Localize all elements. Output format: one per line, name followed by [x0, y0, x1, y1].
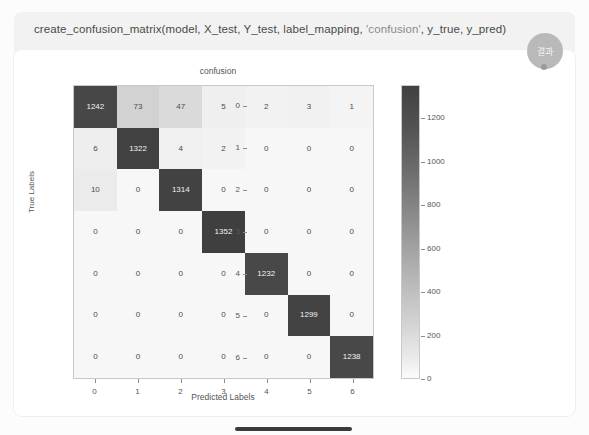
x-tick-label: 4: [247, 387, 287, 396]
colorbar-tick-mark: [421, 379, 425, 380]
heatmap-cell: 0: [245, 169, 288, 211]
heatmap-cell: 0: [117, 336, 160, 378]
colorbar-tick-label: 0: [427, 374, 431, 383]
colorbar-tick-label: 1200: [427, 113, 445, 122]
heatmap-cell: 1322: [117, 128, 160, 170]
y-tick-label: 3: [200, 227, 240, 236]
colorbar-tick-label: 800: [427, 200, 440, 209]
heatmap-cell: 0: [117, 253, 160, 295]
heatmap-cell: 73: [117, 86, 160, 128]
y-axis-label: True Labels: [27, 171, 36, 213]
notebook-page: create_confusion_matrix(model, X_test, Y…: [0, 0, 589, 435]
heatmap-cell: 3: [288, 86, 331, 128]
x-tick-label: 3: [204, 387, 244, 396]
x-tick-mark: [224, 379, 225, 383]
code-call-suffix: , y_true, y_pred): [421, 23, 506, 35]
y-tick-label: 5: [200, 311, 240, 320]
heatmap-cell: 0: [74, 253, 117, 295]
result-badge-dot: [541, 64, 547, 70]
y-tick-label: 0: [200, 101, 240, 110]
heatmap-cell: 2: [245, 86, 288, 128]
x-tick-mark: [95, 379, 96, 383]
heatmap-cell: 47: [159, 86, 202, 128]
heatmap-cell: 1314: [159, 169, 202, 211]
colorbar-tick-mark: [421, 162, 425, 163]
heatmap-cell: 1: [330, 86, 373, 128]
x-tick-mark: [353, 379, 354, 383]
heatmap-cell: 0: [117, 295, 160, 337]
heatmap-cell: 0: [288, 336, 331, 378]
heatmap-cell: 0: [245, 295, 288, 337]
heatmap-cell: 0: [330, 128, 373, 170]
y-tick-mark: [243, 148, 247, 149]
colorbar-tick-mark: [421, 336, 425, 337]
y-tick-mark: [243, 106, 247, 107]
heatmap-cell: 1299: [288, 295, 331, 337]
heatmap-cell: 0: [245, 128, 288, 170]
code-string-argument: 'confusion': [366, 23, 421, 35]
heatmap-cell: 0: [245, 211, 288, 253]
code-cell-text: create_confusion_matrix(model, X_test, Y…: [34, 23, 506, 35]
colorbar: [401, 85, 420, 379]
y-tick-mark: [243, 274, 247, 275]
x-tick-label: 2: [161, 387, 201, 396]
heatmap-cell: 0: [159, 253, 202, 295]
result-badge-label: 결과: [537, 45, 552, 58]
heatmap-cell: 0: [117, 211, 160, 253]
heatmap-cell: 0: [117, 169, 160, 211]
y-tick-label: 4: [200, 269, 240, 278]
x-tick-label: 1: [118, 387, 158, 396]
heatmap-cell: 0: [159, 211, 202, 253]
colorbar-tick-mark: [421, 205, 425, 206]
heatmap-cell: 0: [288, 253, 331, 295]
heatmap-cell: 0: [245, 336, 288, 378]
heatmap-cell: 0: [159, 336, 202, 378]
x-tick-mark: [267, 379, 268, 383]
y-tick-label: 2: [200, 185, 240, 194]
x-tick-label: 6: [333, 387, 373, 396]
output-card: confusion True Labels Predicted Labels 1…: [14, 50, 575, 416]
x-tick-label: 5: [290, 387, 330, 396]
heatmap-cell: 1232: [245, 253, 288, 295]
heatmap-cell: 0: [288, 128, 331, 170]
scroll-indicator[interactable]: [235, 427, 352, 431]
y-tick-mark: [243, 190, 247, 191]
heatmap-cell: 0: [330, 295, 373, 337]
code-cell-strip[interactable]: create_confusion_matrix(model, X_test, Y…: [14, 12, 575, 52]
x-tick-mark: [181, 379, 182, 383]
heatmap-cell: 0: [330, 211, 373, 253]
heatmap-cell: 0: [74, 211, 117, 253]
heatmap-cell: 0: [288, 211, 331, 253]
y-tick-mark: [243, 316, 247, 317]
colorbar-tick-label: 400: [427, 287, 440, 296]
heatmap-cell: 0: [74, 295, 117, 337]
colorbar-tick-mark: [421, 118, 425, 119]
x-tick-mark: [138, 379, 139, 383]
heatmap-cell: 0: [330, 169, 373, 211]
colorbar-tick-label: 600: [427, 244, 440, 253]
heatmap-cell: 4: [159, 128, 202, 170]
heatmap-cell: 0: [288, 169, 331, 211]
chart-title: confusion: [38, 66, 398, 76]
y-tick-label: 1: [200, 143, 240, 152]
colorbar-tick-mark: [421, 292, 425, 293]
colorbar-tick-label: 1000: [427, 157, 445, 166]
y-tick-mark: [243, 232, 247, 233]
y-tick-mark: [243, 358, 247, 359]
code-call-prefix: create_confusion_matrix(model, X_test, Y…: [34, 23, 366, 35]
heatmap-cell: 6: [74, 128, 117, 170]
x-tick-mark: [310, 379, 311, 383]
heatmap-cell: 0: [159, 295, 202, 337]
heatmap-cell: 10: [74, 169, 117, 211]
heatmap-cell: 0: [74, 336, 117, 378]
heatmap-cell: 1242: [74, 86, 117, 128]
colorbar-tick-mark: [421, 249, 425, 250]
y-tick-label: 6: [200, 353, 240, 362]
heatmap-cell: 0: [330, 253, 373, 295]
colorbar-tick-label: 200: [427, 331, 440, 340]
confusion-matrix-figure: confusion True Labels Predicted Labels 1…: [38, 58, 548, 408]
x-tick-label: 0: [75, 387, 115, 396]
heatmap-cell: 1238: [330, 336, 373, 378]
